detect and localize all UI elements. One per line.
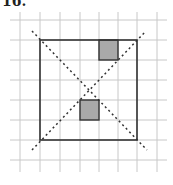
shaded-cell (80, 100, 99, 120)
geometry-figure (0, 0, 173, 185)
shaded-cell (99, 40, 118, 60)
dashed-diagonals (32, 31, 147, 150)
